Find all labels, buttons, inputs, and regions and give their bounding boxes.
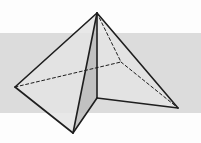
pyramid-diagram [0, 0, 201, 143]
diagram-canvas [0, 0, 201, 143]
